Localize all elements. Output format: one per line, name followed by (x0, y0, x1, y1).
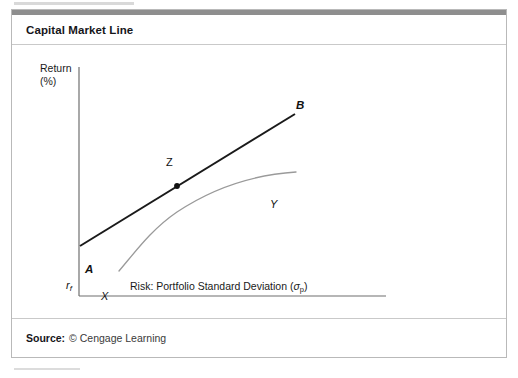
curve-label-y: Y (270, 198, 277, 210)
figure-container: Capital Market Line Return (%) Risk: Por… (11, 9, 507, 358)
page-artifact-bottom-rule (14, 368, 80, 370)
x-axis-title: Risk: Portfolio Standard Deviation (σp) (130, 280, 307, 297)
source-text: © Cengage Learning (69, 332, 166, 344)
figure-plot-area: Return (%) Risk: Portfolio Standard Devi… (12, 45, 506, 318)
curve-label-x: X (101, 290, 108, 302)
point-label-a: A (85, 263, 93, 275)
x-axis-title-close: ) (304, 280, 308, 292)
rf-subscript: f (70, 284, 72, 293)
figure-source-footer: Source: © Cengage Learning (12, 318, 506, 357)
chart-canvas (12, 45, 506, 318)
efficient-frontier-curve (119, 172, 296, 271)
tangency-point-z-marker (174, 183, 180, 189)
figure-title-bar: Capital Market Line (12, 15, 506, 45)
source-label: Source: (26, 332, 65, 344)
figure-title: Capital Market Line (26, 24, 133, 36)
point-label-b: B (296, 99, 304, 111)
x-axis-title-text: Risk: Portfolio Standard Deviation ( (130, 280, 293, 292)
y-axis-title: Return (%) (40, 62, 72, 87)
capital-market-line (80, 114, 295, 246)
risk-free-rate-label: rf (66, 279, 72, 293)
page-artifact-top-rule (14, 2, 134, 5)
point-label-z: Z (166, 156, 173, 168)
chart-svg (12, 45, 506, 318)
